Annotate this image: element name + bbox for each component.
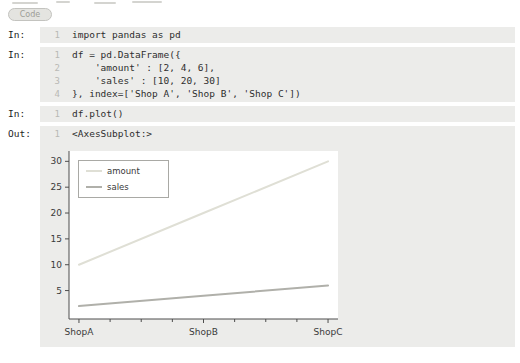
legend-label-sales: sales xyxy=(107,182,129,192)
cell-gutter: In: xyxy=(0,106,40,122)
cell-gutter: In: xyxy=(0,47,40,102)
code-text: import pandas as pd xyxy=(72,28,181,41)
code-editor-area[interactable]: 1 import pandas as pd xyxy=(40,27,515,43)
code-cell: In: 1 import pandas as pd xyxy=(0,27,515,43)
y-tick-label: 30 xyxy=(51,156,63,166)
x-tick-label: ShopA xyxy=(65,327,95,337)
code-editor-area[interactable]: 1 df = pd.DataFrame({ 2 'amount' : [2, 4… xyxy=(40,47,515,102)
code-text: 'amount' : [2, 4, 6], xyxy=(72,61,215,74)
line-number: 1 xyxy=(40,129,60,139)
cell-output-label: Out: xyxy=(0,126,40,139)
code-text: }, index=['Shop A', 'Shop B', 'Shop C']) xyxy=(72,87,301,100)
code-editor-area[interactable]: 1 df.plot() xyxy=(40,106,515,122)
code-cell: In: 1 df.plot() xyxy=(0,106,515,122)
code-text: df = pd.DataFrame({ xyxy=(72,48,181,61)
code-text: 'sales' : [10, 20, 30] xyxy=(72,74,221,87)
chart-canvas: 51015202530ShopAShopBShopCamountsales xyxy=(40,145,385,345)
cell-input-label: In: xyxy=(0,47,40,60)
line-number: 1 xyxy=(40,50,60,60)
code-line: 2 'amount' : [2, 4, 6], xyxy=(40,61,515,74)
cell-gutter: In: xyxy=(0,27,40,43)
legend-label-amount: amount xyxy=(107,166,140,176)
line-number: 2 xyxy=(40,63,60,73)
code-line: 4 }, index=['Shop A', 'Shop B', 'Shop C'… xyxy=(40,87,515,100)
code-cell: In: 1 df = pd.DataFrame({ 2 'amount' : [… xyxy=(0,47,515,102)
notebook-cells: In: 1 import pandas as pd In: 1 df = pd.… xyxy=(0,27,520,347)
code-line: 1 <AxesSubplot:> xyxy=(40,127,515,140)
output-text: <AxesSubplot:> xyxy=(72,127,152,140)
line-chart: 51015202530ShopAShopBShopCamountsales xyxy=(40,145,515,345)
cell-gutter: Out: xyxy=(0,126,40,347)
y-tick-label: 5 xyxy=(56,286,62,296)
y-tick-label: 10 xyxy=(51,260,63,270)
clipped-text-remnant xyxy=(8,0,308,6)
y-tick-label: 25 xyxy=(51,182,62,192)
code-line: 3 'sales' : [10, 20, 30] xyxy=(40,74,515,87)
line-number: 4 xyxy=(40,89,60,99)
cell-input-label: In: xyxy=(0,106,40,119)
code-cell-type-badge[interactable]: Code xyxy=(8,8,52,21)
code-line: 1 df.plot() xyxy=(40,107,515,120)
code-line: 1 import pandas as pd xyxy=(40,28,515,41)
code-text: df.plot() xyxy=(72,107,123,120)
y-tick-label: 20 xyxy=(51,208,63,218)
line-number: 3 xyxy=(40,76,60,86)
code-line: 1 df = pd.DataFrame({ xyxy=(40,48,515,61)
y-tick-label: 15 xyxy=(51,234,62,244)
x-tick-label: ShopB xyxy=(189,327,218,337)
x-tick-label: ShopC xyxy=(314,327,343,337)
output-area: 1 <AxesSubplot:> 51015202530ShopAShopBSh… xyxy=(40,126,515,347)
output-cell: Out: 1 <AxesSubplot:> 51015202530ShopASh… xyxy=(0,126,515,347)
line-number: 1 xyxy=(40,30,60,40)
line-number: 1 xyxy=(40,109,60,119)
cell-input-label: In: xyxy=(0,27,40,40)
